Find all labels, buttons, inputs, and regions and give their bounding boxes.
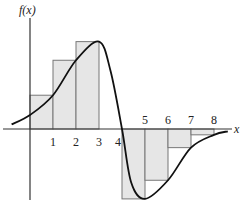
tick-label-4: 4 (115, 135, 121, 149)
riemann-rectangle (145, 129, 168, 180)
tick-label-2: 2 (73, 135, 79, 149)
tick-label-5: 5 (142, 113, 148, 127)
riemann-rectangle (53, 60, 76, 129)
x-axis-label: x (233, 122, 240, 136)
tick-label-3: 3 (96, 135, 102, 149)
riemann-rectangle (76, 42, 99, 129)
riemann-rectangle (191, 129, 214, 135)
riemann-rectangle (168, 129, 191, 148)
tick-label-8: 8 (211, 113, 217, 127)
tick-label-1: 1 (50, 135, 56, 149)
tick-label-7: 7 (188, 113, 194, 127)
y-axis-label: f(x) (19, 3, 36, 17)
rectangles (30, 42, 214, 199)
riemann-sum-figure: f(x) x 12345678 (0, 0, 241, 204)
tick-label-6: 6 (165, 113, 171, 127)
